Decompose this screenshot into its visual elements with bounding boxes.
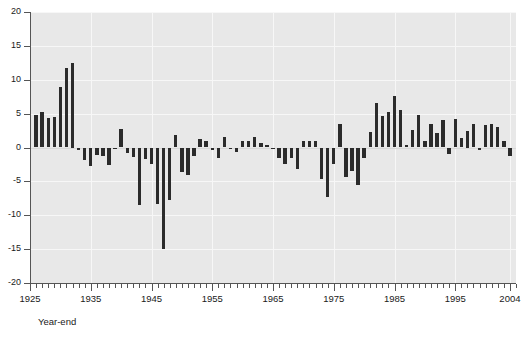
x-axis-tick-minor — [249, 284, 250, 288]
bar — [265, 145, 268, 148]
y-axis-tick — [24, 114, 30, 115]
bar — [83, 148, 86, 160]
bar — [47, 118, 50, 148]
x-axis-tick-major — [212, 284, 213, 291]
bar — [65, 68, 68, 148]
x-axis-tick-minor — [449, 284, 450, 288]
x-axis-label: 1925 — [19, 294, 40, 304]
bar — [229, 148, 232, 149]
x-axis-tick-minor — [382, 284, 383, 288]
bar — [186, 148, 189, 175]
bar — [314, 141, 317, 147]
y-axis-label: 10 — [0, 75, 21, 84]
bar — [241, 141, 244, 148]
bar — [217, 148, 220, 159]
bar — [192, 148, 195, 157]
x-axis-label: 1935 — [80, 294, 101, 304]
bar — [107, 148, 110, 166]
x-axis-tick-minor — [419, 284, 420, 288]
x-axis-tick-minor — [486, 284, 487, 288]
bar — [204, 141, 207, 148]
x-axis-tick-minor — [431, 284, 432, 288]
x-axis-tick-minor — [303, 284, 304, 288]
y-axis-tick — [24, 148, 30, 149]
bar — [283, 148, 286, 164]
bar — [496, 127, 499, 147]
x-axis-tick-major — [395, 284, 396, 291]
bar — [77, 148, 80, 150]
bar — [320, 148, 323, 179]
x-axis-label: 1955 — [202, 294, 223, 304]
bar — [198, 139, 201, 147]
bar — [441, 120, 444, 147]
bar — [375, 103, 378, 147]
bar — [508, 148, 511, 156]
y-axis-tick — [24, 80, 30, 81]
y-axis-tick — [24, 249, 30, 250]
bar — [132, 148, 135, 157]
bar — [356, 148, 359, 186]
bar — [344, 148, 347, 177]
bar — [119, 129, 122, 147]
bar — [332, 148, 335, 165]
bar — [71, 63, 74, 148]
x-axis-tick-minor — [60, 284, 61, 288]
x-axis-tick-minor — [218, 284, 219, 288]
bar — [277, 148, 280, 159]
x-axis-tick-minor — [194, 284, 195, 288]
x-axis-tick-minor — [66, 284, 67, 288]
bar — [381, 116, 384, 147]
x-axis-label: 2004 — [499, 294, 520, 304]
x-axis-tick-minor — [261, 284, 262, 288]
bar — [53, 117, 56, 147]
x-axis-tick-major — [91, 284, 92, 291]
x-axis-tick-minor — [170, 284, 171, 288]
x-axis-tick-minor — [504, 284, 505, 288]
bar — [34, 115, 37, 148]
bar — [126, 148, 129, 153]
x-axis-tick-minor — [364, 284, 365, 288]
x-axis-tick-major — [455, 284, 456, 291]
bar — [89, 148, 92, 166]
x-axis-tick-minor — [370, 284, 371, 288]
x-axis-tick-minor — [115, 284, 116, 288]
y-axis-label: -5 — [0, 176, 21, 185]
x-axis-tick-minor — [145, 284, 146, 288]
x-axis-tick-minor — [85, 284, 86, 288]
bar — [362, 148, 365, 158]
x-axis-label: 1945 — [141, 294, 162, 304]
bar — [156, 148, 159, 204]
bar — [95, 148, 98, 155]
bar — [247, 141, 250, 147]
x-axis-tick-minor — [297, 284, 298, 288]
bar — [150, 148, 153, 165]
bar — [478, 148, 481, 151]
x-axis-tick-minor — [285, 284, 286, 288]
x-axis-tick-minor — [224, 284, 225, 288]
bar — [174, 135, 177, 147]
x-axis-tick-minor — [437, 284, 438, 288]
bar — [302, 141, 305, 148]
bar — [259, 143, 262, 147]
x-axis-tick-minor — [54, 284, 55, 288]
x-axis-label: 1975 — [323, 294, 344, 304]
bar — [253, 137, 256, 147]
bar — [387, 112, 390, 147]
bar — [472, 124, 475, 148]
bar — [113, 148, 116, 149]
x-axis-tick-minor — [461, 284, 462, 288]
y-axis-line — [30, 12, 31, 284]
x-axis-tick-minor — [97, 284, 98, 288]
bar — [101, 148, 104, 157]
x-axis-tick-minor — [407, 284, 408, 288]
x-axis-tick-major — [273, 284, 274, 291]
bar — [296, 148, 299, 169]
bar — [180, 148, 183, 172]
x-axis-label: 1985 — [384, 294, 405, 304]
bar — [235, 148, 238, 152]
bar — [271, 148, 274, 149]
y-axis-label: 20 — [0, 7, 21, 16]
x-axis-tick-minor — [322, 284, 323, 288]
plot-area — [30, 12, 516, 283]
